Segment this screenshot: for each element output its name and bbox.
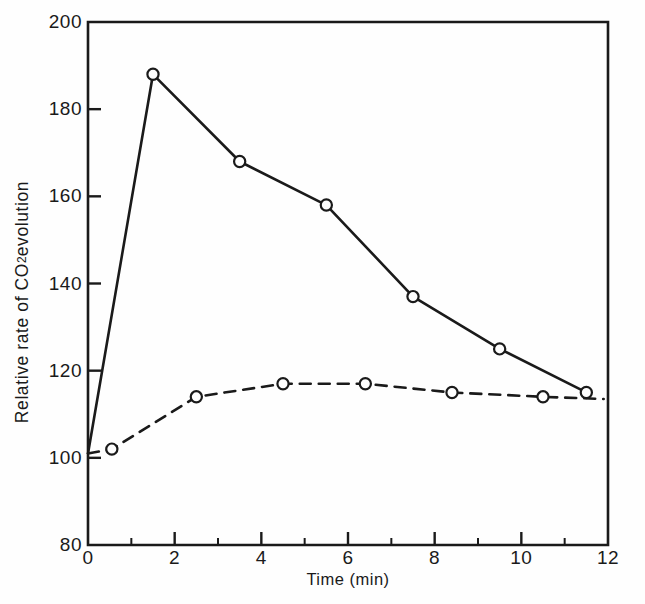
figure-container: Relative rate of CO2 evolution 801001201… [0, 0, 645, 604]
data-point-marker [446, 387, 457, 398]
data-point-marker [147, 69, 158, 80]
series-line-dashed-series [88, 384, 604, 454]
data-series-group [88, 69, 604, 455]
data-point-marker [537, 391, 548, 402]
data-point-marker [407, 291, 418, 302]
data-point-marker [321, 199, 332, 210]
data-point-marker [581, 387, 592, 398]
axis-ticks [88, 109, 565, 545]
data-point-marker [277, 378, 288, 389]
data-point-marker [360, 378, 371, 389]
data-point-marker [191, 391, 202, 402]
data-point-marker [106, 444, 117, 455]
data-point-marker [494, 343, 505, 354]
axis-frame [88, 22, 608, 545]
axes-frame [88, 22, 608, 545]
plot-area [0, 0, 645, 604]
data-point-marker [234, 156, 245, 167]
